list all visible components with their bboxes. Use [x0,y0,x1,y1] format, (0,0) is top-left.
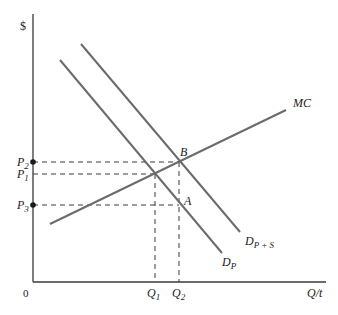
p3-marker [30,202,36,208]
economics-diagram: $ Q/t 0 P2 P1 P3 Q1 Q2 B A MC DP + S DP [0,0,338,315]
dps-label: DP + S [244,234,275,250]
y-axis-label: $ [20,19,26,33]
origin-label: 0 [23,287,29,299]
q1-label: Q1 [147,286,160,302]
mc-label: MC [292,96,312,110]
dp-label: DP [221,255,237,271]
demand-dp-curve [60,60,222,253]
p3-label: P3 [16,198,29,214]
demand-dps-curve [81,44,240,232]
q2-label: Q2 [172,286,186,302]
p2-marker [30,159,36,165]
point-b-label: B [180,145,188,159]
point-a-label: A [183,194,192,208]
x-axis-label: Q/t [307,286,323,300]
mc-curve [50,110,286,224]
